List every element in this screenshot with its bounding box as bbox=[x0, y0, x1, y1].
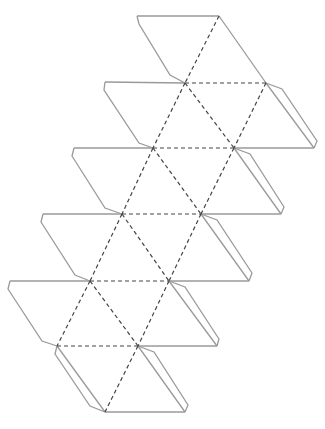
icosahedron-net-diagram bbox=[0, 0, 325, 429]
cut-edge bbox=[57, 346, 105, 412]
fold-edge bbox=[122, 148, 153, 214]
cut-edge bbox=[138, 346, 185, 412]
fold-edge bbox=[201, 148, 234, 214]
cut-edge bbox=[201, 214, 249, 281]
glue-tab bbox=[41, 214, 90, 281]
cut-edge bbox=[266, 83, 314, 148]
glue-tab bbox=[8, 281, 57, 346]
fold-edge bbox=[57, 281, 90, 346]
glue-tab bbox=[137, 16, 185, 83]
cut-edge bbox=[219, 16, 266, 83]
glue-tab bbox=[72, 148, 122, 214]
fold-edge bbox=[122, 214, 169, 281]
cut-edge bbox=[234, 148, 281, 214]
cut-edge bbox=[169, 281, 217, 346]
fold-edge bbox=[153, 83, 185, 148]
fold-edge bbox=[105, 346, 138, 412]
fold-edge bbox=[90, 281, 138, 346]
fold-edge bbox=[169, 214, 201, 281]
glue-tab bbox=[104, 82, 153, 148]
fold-edge bbox=[138, 281, 169, 346]
fold-edge bbox=[185, 16, 219, 83]
fold-edge bbox=[234, 83, 266, 148]
fold-edge bbox=[185, 83, 234, 148]
fold-edge bbox=[90, 214, 122, 281]
fold-edge bbox=[153, 148, 201, 214]
cut-edge bbox=[105, 82, 185, 83]
